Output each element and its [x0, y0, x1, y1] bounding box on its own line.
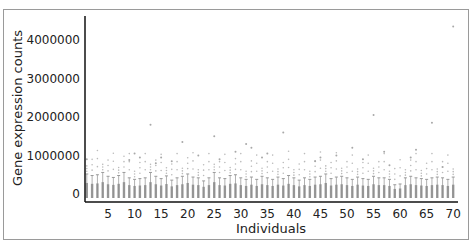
- box-individual-24: [207, 153, 210, 198]
- box-individual-49: [340, 167, 343, 198]
- x-tick-labels: 510152025303540455055606570: [104, 207, 461, 221]
- outlier-point: [160, 156, 162, 158]
- box-individual-55: [372, 167, 375, 198]
- box-individual-31: [245, 170, 248, 198]
- box-individual-2: [91, 159, 94, 198]
- box-individual-70: [452, 168, 455, 198]
- box-individual-20: [186, 157, 189, 198]
- box-individual-69: [446, 154, 449, 198]
- boxplot-chart: 01000000200000030000004000000 5101520253…: [0, 0, 474, 248]
- box-individual-52: [356, 168, 359, 198]
- box-individual-39: [287, 150, 290, 198]
- box-individual-26: [218, 161, 221, 198]
- box-individual-64: [420, 170, 423, 198]
- box-individual-33: [255, 154, 258, 198]
- box-individual-5: [107, 159, 110, 198]
- box-individual-63: [415, 153, 418, 198]
- y-tick-label: 1000000: [27, 149, 80, 163]
- box-individual-37: [276, 168, 279, 198]
- box-individual-41: [298, 163, 301, 198]
- box-individual-47: [330, 162, 333, 198]
- x-tick-label: 65: [419, 207, 434, 221]
- outlier-point: [282, 131, 284, 133]
- x-tick-label: 25: [207, 207, 222, 221]
- box-individual-32: [250, 160, 253, 198]
- box-individual-35: [266, 161, 269, 198]
- box-individual-30: [239, 153, 242, 198]
- box-individual-6: [112, 152, 115, 198]
- x-tick-label: 30: [233, 207, 248, 221]
- box-individual-48: [335, 152, 338, 198]
- outlier-point: [128, 159, 130, 161]
- outlier-point: [197, 155, 199, 157]
- outlier-point: [373, 114, 375, 116]
- outlier-point: [219, 158, 221, 160]
- box-individual-50: [345, 161, 348, 198]
- box-individual-40: [292, 169, 295, 198]
- outlier-point: [319, 156, 321, 158]
- box-individual-51: [351, 154, 354, 198]
- y-axis-label: Gene expression counts: [10, 30, 25, 186]
- box-individual-14: [154, 159, 157, 198]
- box-individual-8: [122, 155, 125, 198]
- outlier-point: [234, 151, 236, 153]
- outlier-point: [383, 151, 385, 153]
- outlier-point: [139, 156, 141, 158]
- outlier-point: [155, 162, 157, 164]
- box-individual-13: [149, 164, 152, 198]
- box-individual-18: [176, 153, 179, 198]
- outlier-point: [431, 122, 433, 124]
- y-tick-label: 3000000: [27, 72, 80, 86]
- x-tick-label: 70: [446, 207, 461, 221]
- outlier-point: [261, 156, 263, 158]
- box-individual-46: [324, 165, 327, 198]
- y-tick-label: 4000000: [27, 33, 80, 47]
- y-tick-label: 2000000: [27, 110, 80, 124]
- box-individual-21: [192, 152, 195, 198]
- box-individual-25: [213, 164, 216, 198]
- outlier-point: [415, 149, 417, 151]
- box-individual-19: [181, 167, 184, 198]
- y-tick-labels: 01000000200000030000004000000: [27, 33, 80, 201]
- box-individual-15: [160, 154, 163, 198]
- outlier-point: [245, 143, 247, 145]
- x-tick-label: 50: [339, 207, 354, 221]
- x-tick-label: 60: [392, 207, 407, 221]
- outlier-point: [314, 160, 316, 162]
- box-individual-58: [388, 170, 391, 198]
- x-tick-label: 10: [127, 207, 142, 221]
- outlier-point: [266, 153, 268, 155]
- x-axis-label: Individuals: [236, 221, 306, 236]
- box-individual-66: [430, 153, 433, 198]
- box-individual-23: [202, 164, 205, 198]
- outlier-point: [442, 166, 444, 168]
- x-tick-label: 5: [104, 207, 112, 221]
- box-individual-61: [404, 169, 407, 198]
- box-individual-10: [133, 170, 136, 198]
- outlier-point: [213, 135, 215, 137]
- box-individual-54: [367, 154, 370, 198]
- box-individual-11: [138, 162, 141, 198]
- outlier-point: [410, 156, 412, 158]
- box-individual-28: [229, 167, 232, 198]
- box-individual-12: [144, 153, 147, 198]
- box-individual-43: [308, 170, 311, 198]
- box-individual-4: [101, 164, 104, 198]
- outlier-point: [335, 155, 337, 157]
- x-tick-label: 45: [313, 207, 328, 221]
- y-tick-label: 0: [72, 187, 80, 201]
- box-individual-27: [223, 154, 226, 198]
- box-individual-67: [436, 168, 439, 198]
- x-tick-label: 35: [260, 207, 275, 221]
- outlier-point: [181, 141, 183, 143]
- box-individual-36: [271, 154, 274, 198]
- plot-area: [85, 26, 454, 198]
- box-individual-22: [197, 169, 200, 198]
- box-individual-60: [399, 159, 402, 198]
- box-individual-17: [170, 163, 173, 198]
- outlier-point: [351, 147, 353, 149]
- box-individual-16: [165, 167, 168, 198]
- outlier-point: [250, 147, 252, 149]
- outlier-point: [134, 153, 136, 155]
- box-individual-57: [383, 153, 386, 198]
